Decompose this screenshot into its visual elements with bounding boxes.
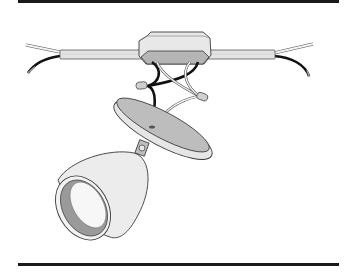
spotlight-wiring-illustration [0, 0, 353, 279]
wire-connectors [136, 81, 209, 101]
spotlight-lamp-head [44, 152, 148, 250]
cable-left-ends [26, 45, 60, 73]
bottom-rule [18, 263, 339, 266]
junction-box [139, 32, 211, 64]
cable-right-ends [274, 44, 313, 77]
